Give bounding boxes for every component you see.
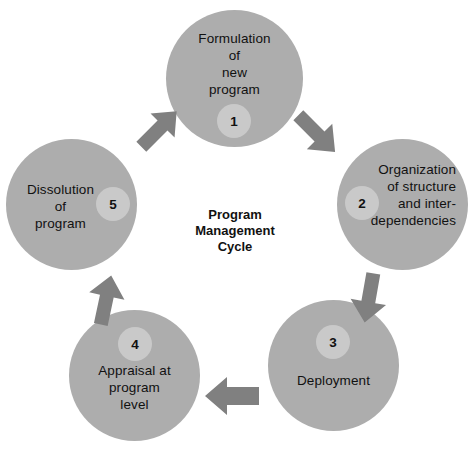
arrow-5-to-1-icon: [128, 98, 190, 160]
cycle-node-5[interactable]: Dissolution of program 5: [6, 139, 137, 270]
arrow-2-to-3-icon: [337, 266, 401, 330]
arrow-4-to-5-icon: [74, 268, 138, 332]
diagram-center-title: Program Management Cycle: [170, 207, 300, 255]
cycle-node-2-number-badge: 2: [345, 186, 379, 220]
program-management-cycle-diagram: Formulation of new program 1 Organizatio…: [0, 0, 468, 459]
cycle-node-5-number-badge: 5: [96, 187, 130, 221]
cycle-node-3-number-badge: 3: [316, 325, 350, 359]
cycle-node-1-label: Formulation of new program: [166, 30, 303, 98]
cycle-node-1-number-badge: 1: [217, 104, 251, 138]
cycle-node-4-number-badge: 4: [118, 327, 152, 361]
cycle-node-3-label: Deployment: [268, 372, 399, 389]
arrow-1-to-2-icon: [283, 100, 349, 166]
cycle-node-4-label: Appraisal at program level: [69, 362, 200, 413]
cycle-node-2[interactable]: Organization of structure and inter- dep…: [337, 139, 468, 270]
arrow-3-to-4-icon: [203, 375, 261, 417]
